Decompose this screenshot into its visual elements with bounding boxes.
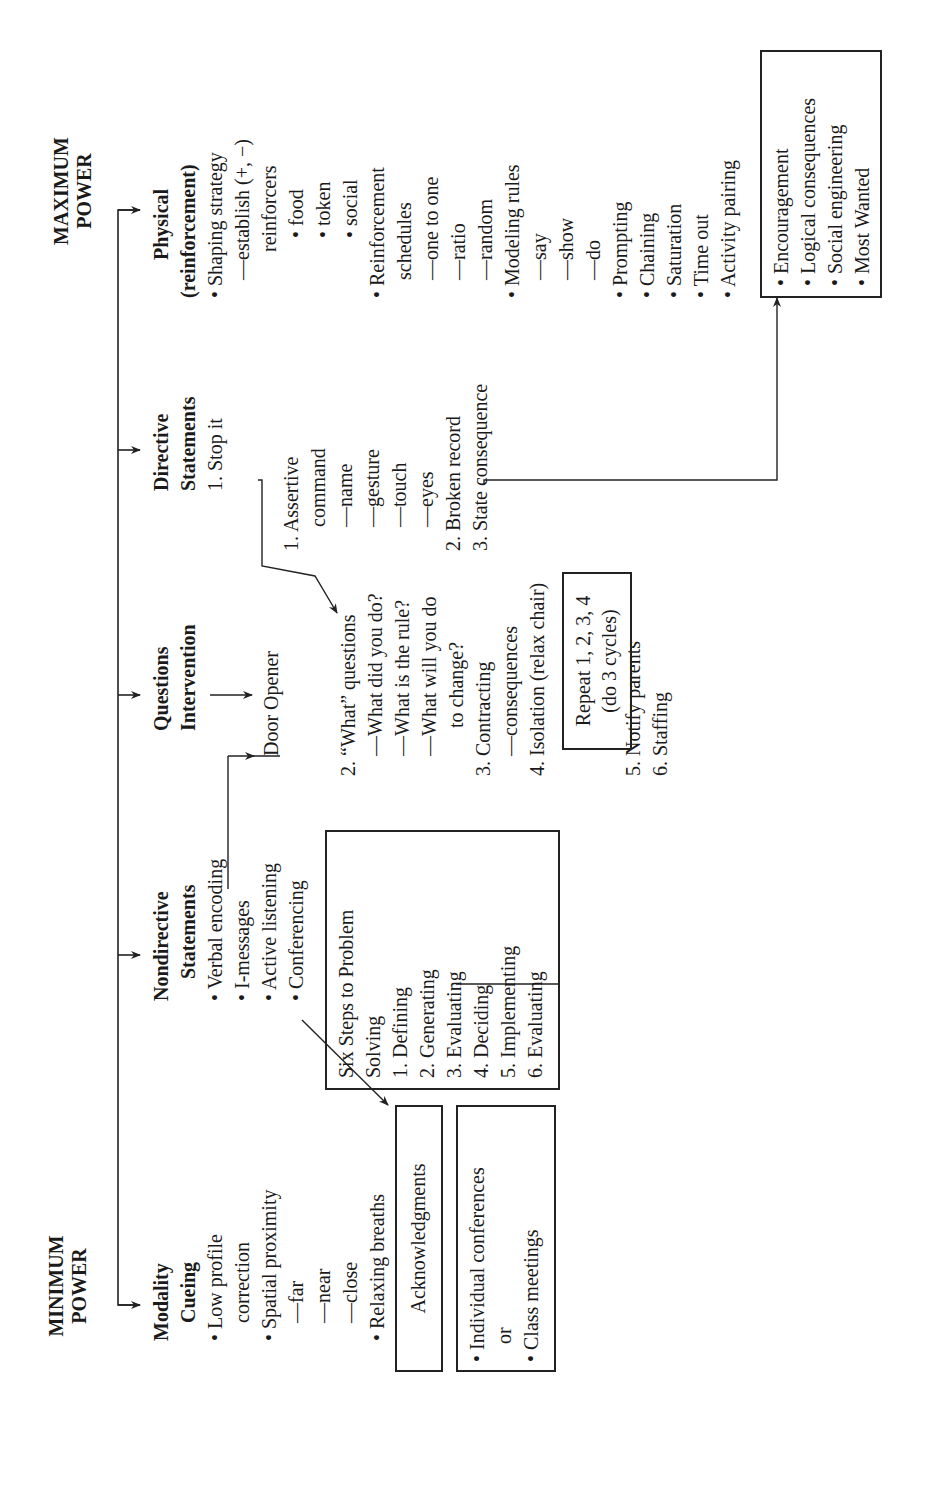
list-item: correction [229,1190,256,1341]
maximum-power-label: MAXIMUM POWER [50,131,96,251]
minimum-label: MINIMUM [45,1226,68,1346]
list-item-contracting: 3. Contracting [470,583,497,776]
conferences-box: • Individual conferences or • Class meet… [456,1105,556,1372]
directive-heading: Directive [148,397,175,491]
list-item: • Modeling rules [499,139,526,298]
list-item: —one to one [418,139,445,298]
list-item: • Encouragement [768,62,795,286]
list-item: • Reinforcement [364,139,391,298]
cycles-label: (do 3 cycles) [596,574,622,748]
physical-heading: Physical [148,139,175,298]
list-item: • Low profile [202,1190,229,1341]
individual-conferences-item: • Individual conferences [464,1115,491,1362]
list-item: —show [553,139,580,298]
list-item: • Shaping strategy [202,139,229,298]
list-item: 6. Staffing [647,641,674,776]
six-steps-title: Solving [360,842,387,1078]
list-item: 1. Assertive [278,384,305,551]
questions-steps: 2. “What” questions —What did you do? —W… [335,583,551,776]
door-opener: Door Opener [258,651,285,756]
list-item: 4. Isolation (relax chair) [524,583,551,776]
list-item: • Activity pairing [715,139,742,298]
power-label: POWER [68,1226,91,1346]
list-item: 3. State consequence [467,384,494,551]
questions-column: Questions Intervention [148,624,202,731]
list-item: 4. Deciding [468,842,495,1078]
class-meetings-item: • Class meetings [518,1115,545,1362]
acknowledgments-box: Acknowledgments [395,1105,443,1372]
list-item: 5. Implementing [495,842,522,1078]
repeat-label: Repeat 1, 2, 3, 4 [570,574,596,748]
list-item: 2. Generating [414,842,441,1078]
list-item: 6. Evaluating [522,842,549,1078]
list-item: —touch [386,384,413,551]
list-item: • token [310,139,337,298]
list-item: —say [526,139,553,298]
list-item: • Relaxing breaths [364,1190,391,1341]
list-item: —What did you do? [362,583,389,776]
list-item: command [305,384,332,551]
intervention-heading: Intervention [175,624,202,731]
list-item: 2. “What” questions [335,583,362,776]
list-item: —What is the rule? [389,583,416,776]
encouragement-box: • Encouragement • Logical consequences •… [760,50,882,298]
directive-column: Directive Statements 1. Stop it [148,397,229,491]
list-item: • Verbal encoding [202,859,229,1001]
list-item: —What will you do [416,583,443,776]
modality-column: Modality Cueing • Low profile correction… [148,1190,391,1341]
maximum-label: MAXIMUM [50,131,73,251]
list-item: • Logical consequences [795,62,822,286]
list-item: 2. Broken record [440,384,467,551]
list-item: —ratio [445,139,472,298]
list-item: —do [580,139,607,298]
discipline-power-diagram: MINIMUM POWER MAXIMUM POWER Modality Cue… [0,0,928,1491]
nondirective-column: Nondirective Statements • Verbal encodin… [148,859,310,1001]
acknowledgments-label: Acknowledgments [405,1107,432,1370]
modality-heading: Modality [148,1190,175,1341]
list-item: —near [310,1190,337,1341]
six-steps-box: Six Steps to Problem Solving 1. Defining… [325,830,560,1090]
physical-column: Physical (reinforcement) • Shaping strat… [148,139,742,298]
list-item: —gesture [359,384,386,551]
list-item: —establish (+, −) [229,139,256,298]
statements-heading: Statements [175,859,202,1001]
list-item: —name [332,384,359,551]
list-item: schedules [391,139,418,298]
or-label: or [491,1115,518,1362]
list-item: • I-messages [229,859,256,1001]
list-item: • Prompting [607,139,634,298]
list-item: —eyes [413,384,440,551]
repeat-box: Repeat 1, 2, 3, 4 (do 3 cycles) [562,572,632,750]
statements-heading: Statements [175,397,202,491]
list-item: —far [283,1190,310,1341]
list-item: reinforcers [256,139,283,298]
list-item: —random [472,139,499,298]
list-item: • Spatial proximity [256,1190,283,1341]
list-item: —consequences [497,583,524,776]
list-item: • social [337,139,364,298]
six-steps-title: Six Steps to Problem [333,842,360,1078]
list-item: —close [337,1190,364,1341]
list-item: • Social engineering [822,62,849,286]
list-item: • Saturation [661,139,688,298]
questions-heading: Questions [148,624,175,731]
power-label: POWER [73,131,96,251]
list-item: • Active listening [256,859,283,1001]
list-item: • Conferencing [283,859,310,1001]
list-item: • Most Wanted [849,62,876,286]
list-item: 1. Defining [387,842,414,1078]
nondirective-heading: Nondirective [148,859,175,1001]
minimum-power-label: MINIMUM POWER [45,1226,91,1346]
list-item: to change? [443,583,470,776]
list-item: • Chaining [634,139,661,298]
list-item: • food [283,139,310,298]
list-item: 3. Evaluating [441,842,468,1078]
reinforcement-heading: (reinforcement) [175,139,202,298]
list-item: • Time out [688,139,715,298]
cueing-heading: Cueing [175,1190,202,1341]
stop-it-item: 1. Stop it [202,397,229,491]
directive-steps: 1. Assertive command —name —gesture —tou… [278,384,494,551]
